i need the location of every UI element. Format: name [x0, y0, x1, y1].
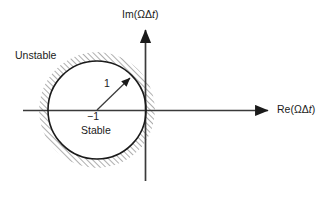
real-axis-label-variable: t [309, 103, 312, 115]
imaginary-axis-label-variable: t [152, 8, 155, 20]
stable-region-label: Stable [81, 125, 111, 136]
real-axis-label: Re(ΩΔt) [277, 104, 315, 115]
circle-center-value-label: −1 [87, 111, 99, 122]
figure-canvas [0, 0, 325, 198]
stability-diagram: Im(ΩΔt) Re(ΩΔt) Unstable Stable −1 1 [0, 0, 325, 198]
imaginary-axis-label: Im(ΩΔt) [122, 9, 158, 20]
circle-radius-value-label: 1 [104, 78, 110, 89]
unstable-region-label: Unstable [15, 50, 56, 61]
